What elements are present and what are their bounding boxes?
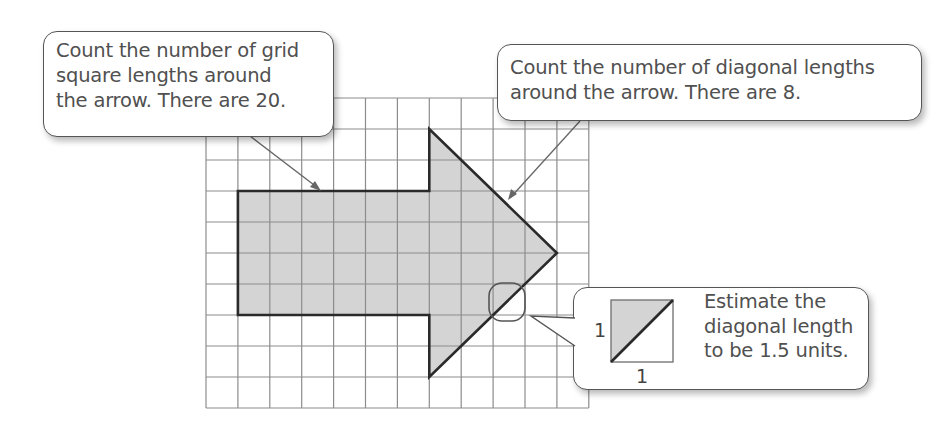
grid	[206, 98, 589, 408]
callout-diagonal-lengths: Count the number of diagonal lengths aro…	[497, 44, 922, 121]
side-label-vertical: 1	[594, 318, 606, 343]
callout-text-line: Count the number of diagonal lengths	[510, 55, 921, 80]
callout-text-line: the arrow. There are 20.	[56, 88, 333, 113]
estimate-text: Estimate the diagonal length to be 1.5 u…	[704, 290, 853, 364]
callout-text-line: to be 1.5 units.	[704, 339, 853, 364]
leader-grid	[250, 136, 318, 188]
callout-text-line: Count the number of grid	[56, 38, 333, 63]
callout-estimate: 1 1 Estimate the diagonal length to be 1…	[573, 287, 869, 390]
callout-text-line: around the arrow. There are 8.	[510, 80, 921, 105]
side-label-horizontal: 1	[636, 364, 648, 389]
callout-grid-lengths: Count the number of grid square lengths …	[43, 31, 334, 137]
callout-text-line: square lengths around	[56, 63, 333, 88]
callout-text-line: Estimate the	[704, 290, 853, 315]
callout-text-line: diagonal length	[704, 315, 853, 340]
leader-diagonal	[511, 121, 580, 197]
